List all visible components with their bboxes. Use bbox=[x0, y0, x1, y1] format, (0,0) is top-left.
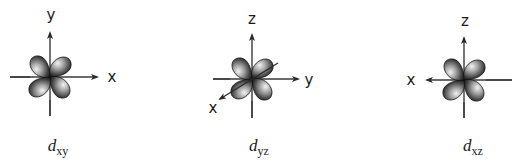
z-axis-label: z bbox=[461, 12, 469, 30]
panel-dyz: y z x bbox=[209, 10, 314, 118]
z-axis-label: z bbox=[248, 10, 256, 28]
panel-dxz: x z bbox=[407, 12, 512, 118]
caption-dyz-main: d bbox=[249, 136, 258, 155]
x-axis-label: x bbox=[407, 71, 416, 89]
caption-dxy-main: d bbox=[48, 136, 57, 155]
y-axis-label: y bbox=[305, 71, 314, 89]
caption-dxz: dxz bbox=[463, 136, 483, 159]
x-axis-label: x bbox=[108, 68, 117, 86]
x-axis-label: x bbox=[209, 99, 218, 117]
caption-dxz-sub: xz bbox=[472, 144, 483, 158]
caption-dyz-sub: yz bbox=[258, 144, 269, 158]
caption-dxz-main: d bbox=[463, 136, 472, 155]
panel-dxy: x y bbox=[10, 6, 117, 116]
y-axis-label: y bbox=[47, 6, 56, 24]
caption-dyz: dyz bbox=[249, 136, 269, 159]
caption-dxy-sub: xy bbox=[56, 144, 68, 158]
caption-dxy: dxy bbox=[48, 136, 69, 159]
